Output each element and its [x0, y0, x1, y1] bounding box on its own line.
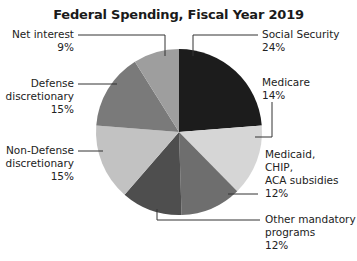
label-defense-line1: Defense [6, 77, 74, 90]
leader-net-interest [78, 35, 165, 56]
label-social-security-pct: 24% [262, 41, 340, 54]
label-social-security-name: Social Security [262, 28, 340, 41]
pie-slice-social-security [179, 49, 262, 132]
pie-slices [96, 49, 262, 215]
label-defense-pct: 15% [6, 103, 74, 116]
label-medicare: Medicare 14% [262, 76, 310, 102]
label-non-defense-line1: Non-Defense [6, 144, 74, 157]
label-other-mandatory-line1: Other mandatory [265, 213, 356, 226]
label-net-interest: Net interest 9% [12, 28, 74, 54]
label-medicaid: Medicaid, CHIP, ACA subsidies 12% [265, 148, 339, 200]
label-medicaid-line1: Medicaid, [265, 148, 339, 161]
label-net-interest-pct: 9% [12, 41, 74, 54]
label-medicaid-line3: ACA subsidies [265, 174, 339, 187]
label-medicare-name: Medicare [262, 76, 310, 89]
label-non-defense: Non-Defense discretionary 15% [6, 144, 74, 183]
label-other-mandatory: Other mandatory programs 12% [265, 213, 356, 252]
label-other-mandatory-pct: 12% [265, 239, 356, 252]
label-medicaid-line2: CHIP, [265, 161, 339, 174]
label-non-defense-line2: discretionary [6, 157, 74, 170]
label-medicare-pct: 14% [262, 89, 310, 102]
label-non-defense-pct: 15% [6, 170, 74, 183]
label-defense: Defense discretionary 15% [6, 77, 74, 116]
label-social-security: Social Security 24% [262, 28, 340, 54]
label-defense-line2: discretionary [6, 90, 74, 103]
label-medicaid-pct: 12% [265, 187, 339, 200]
label-net-interest-name: Net interest [12, 28, 74, 41]
label-other-mandatory-line2: programs [265, 226, 356, 239]
